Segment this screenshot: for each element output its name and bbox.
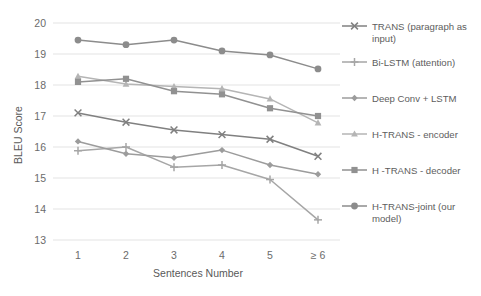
legend-label: Bi-LSTM (attention): [372, 57, 455, 68]
bleu-score-line-chart: 20 19 18 17 16 15 14 13 1 2 3 4 5 ≥ 6 Se…: [0, 0, 481, 296]
y-tick-label: 13: [34, 234, 46, 246]
data-point-square: [351, 167, 357, 173]
data-point-circle: [171, 37, 178, 44]
legend-label-line2: input): [372, 33, 396, 44]
data-point-circle: [267, 52, 274, 59]
x-tick-label: ≥ 6: [311, 249, 326, 261]
data-point-square: [219, 91, 225, 97]
data-point-square: [75, 79, 81, 85]
y-tick-label: 19: [34, 48, 46, 60]
x-tick-label: 2: [123, 249, 129, 261]
data-point-square: [123, 76, 129, 82]
legend-label-line2: model): [372, 213, 401, 224]
legend-label: H-TRANS - encoder: [372, 129, 459, 140]
y-axis-title: BLEU Score: [12, 106, 24, 164]
x-tick-label: 3: [171, 249, 177, 261]
data-point-circle: [123, 41, 130, 48]
x-axis-title: Sentences Number: [153, 267, 243, 279]
legend-label: H -TRANS - decoder: [372, 165, 461, 176]
x-tick-label: 1: [75, 249, 81, 261]
data-point-circle: [219, 48, 226, 55]
data-point-square: [315, 113, 321, 119]
y-tick-label: 15: [34, 172, 46, 184]
data-point-circle: [315, 65, 322, 72]
legend-label: TRANS (paragraph as: [372, 21, 467, 32]
x-tick-label: 4: [219, 249, 225, 261]
data-point-square: [267, 105, 273, 111]
data-point-circle: [351, 203, 358, 210]
y-tick-label: 17: [34, 110, 46, 122]
data-point-square: [171, 88, 177, 94]
y-tick-label: 20: [34, 17, 46, 29]
data-point-circle: [75, 37, 82, 44]
y-tick-label: 18: [34, 79, 46, 91]
legend-label: H-TRANS-joint (our: [372, 201, 456, 212]
legend-label: Deep Conv + LSTM: [372, 93, 457, 104]
y-tick-label: 16: [34, 141, 46, 153]
chart-background: [0, 0, 481, 296]
y-tick-label: 14: [34, 203, 46, 215]
x-tick-label: 5: [267, 249, 273, 261]
